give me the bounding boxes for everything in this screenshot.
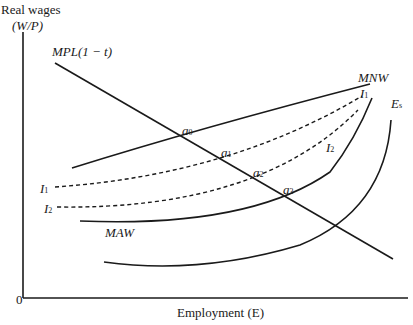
i1-left-sub: 1 <box>44 186 48 195</box>
i1-left-label: I1 <box>40 182 48 195</box>
y-axis-unit: (W/P) <box>12 19 43 32</box>
point-a3-sub: 3 <box>290 187 294 196</box>
i2-left-sub: 2 <box>48 206 52 215</box>
i2-left-label: I2 <box>44 202 52 215</box>
point-a1-sub: 1 <box>228 150 232 159</box>
mnw-label: MNW <box>358 71 388 84</box>
i1-right-sub: 1 <box>364 91 368 100</box>
y-axis-label: Real wages <box>1 3 61 16</box>
point-a2-label: a2 <box>253 166 264 179</box>
i1-right-label: I1 <box>360 87 368 100</box>
origin-label: 0 <box>16 293 23 306</box>
point-a1-label: a1 <box>221 146 232 159</box>
i2-right-label: I2 <box>326 141 334 154</box>
maw-label: MAW <box>105 226 134 239</box>
es-label: Es <box>391 97 402 110</box>
x-axis-label: Employment (E) <box>177 306 264 319</box>
point-a3-label: a3 <box>283 183 294 196</box>
point-a2-sub: 2 <box>260 170 264 179</box>
point-a0-label: a0 <box>182 124 193 137</box>
i1-indifference-curve <box>55 96 362 187</box>
es-supply-curve <box>104 120 391 266</box>
point-a0-sub: 0 <box>189 128 193 137</box>
es-sub: s <box>399 101 402 110</box>
es-letter: E <box>391 96 399 111</box>
i2-right-sub: 2 <box>330 145 334 154</box>
mpl-label: MPL(1 − t) <box>52 45 112 58</box>
